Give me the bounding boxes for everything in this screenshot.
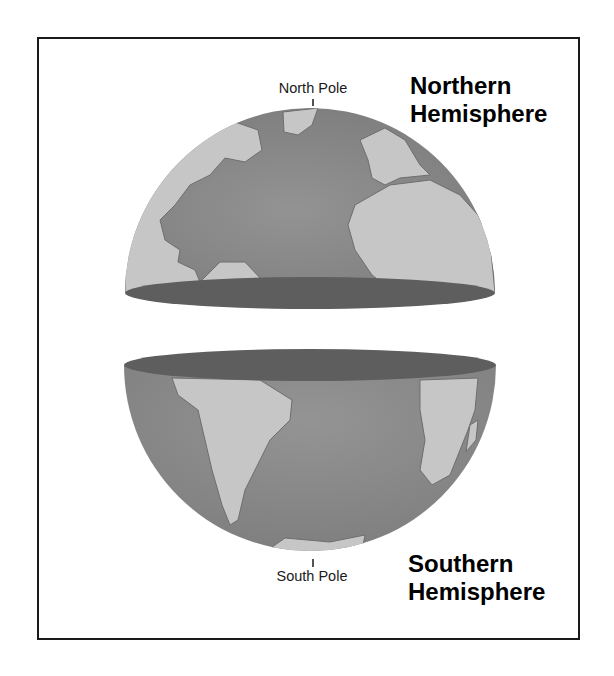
north-pole-label: North Pole	[279, 80, 348, 96]
northern-hemisphere-label: Northern Hemisphere	[410, 72, 547, 128]
southern-label-line2: Hemisphere	[408, 578, 545, 606]
southern-hemisphere-label: Southern Hemisphere	[408, 550, 545, 606]
northern-hemisphere	[125, 108, 495, 309]
northern-label-line1: Northern	[410, 72, 547, 100]
northern-cut-face	[125, 277, 495, 309]
southern-cut-face	[124, 349, 496, 381]
southern-label-line1: Southern	[408, 550, 545, 578]
south-pole-label: South Pole	[277, 568, 348, 584]
northern-label-line2: Hemisphere	[410, 100, 547, 128]
southern-hemisphere	[124, 349, 496, 560]
